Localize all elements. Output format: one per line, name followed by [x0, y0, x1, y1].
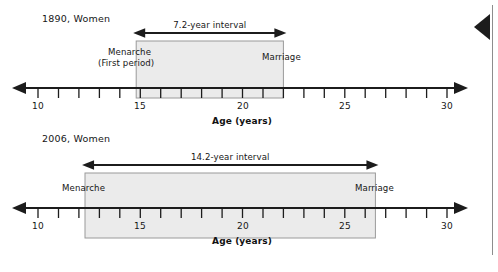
tick-label-15-1890: 15	[125, 101, 155, 111]
start-label-1890-sub: (First period)	[98, 58, 154, 69]
start-label-1890: Menarche (First period)	[108, 47, 154, 69]
tick-label-30-1890: 30	[432, 101, 462, 111]
end-label-2006: Marriage	[355, 183, 394, 194]
panel-2006-graphics	[0, 120, 470, 272]
tick-label-20-1890: 20	[228, 101, 258, 111]
figure-canvas: 1890, Women	[0, 0, 498, 272]
start-label-1890-main: Menarche	[108, 47, 151, 57]
scroll-position-marker-icon[interactable]	[474, 14, 490, 40]
axis-ticks-1890	[38, 88, 447, 98]
tick-label-25-1890: 25	[330, 101, 360, 111]
axis-ticks-2006	[38, 208, 447, 218]
panel-1890: 1890, Women	[0, 0, 470, 136]
start-label-2006: Menarche	[62, 183, 105, 194]
tick-label-15-2006: 15	[125, 221, 155, 231]
interval-label-2006: 14.2-year interval	[155, 152, 305, 162]
end-label-1890: Marriage	[262, 52, 301, 63]
interval-band-1890	[136, 41, 283, 98]
panel-2006: 2006, Women	[0, 120, 470, 272]
tick-label-10-1890: 10	[23, 101, 53, 111]
scrollbar-rail[interactable]	[492, 5, 493, 255]
axis-title-2006: Age (years)	[182, 236, 302, 246]
interval-label-1890: 7.2-year interval	[135, 20, 285, 30]
tick-label-20-2006: 20	[228, 221, 258, 231]
tick-label-10-2006: 10	[23, 221, 53, 231]
tick-label-25-2006: 25	[330, 221, 360, 231]
tick-label-30-2006: 30	[432, 221, 462, 231]
